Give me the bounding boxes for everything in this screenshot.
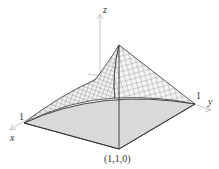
z-axis-label: z xyxy=(102,4,107,15)
y-axis-label: y xyxy=(207,96,213,107)
surface-mesh-right xyxy=(114,45,195,104)
x-tick-one: 1 xyxy=(19,111,24,122)
x-axis-label: x xyxy=(9,132,15,143)
point-label: (1,1,0) xyxy=(104,153,131,165)
y-tick-one: 1 xyxy=(196,90,201,101)
surface-plot: z 1 x 1 y (1,1,0) xyxy=(0,0,219,169)
